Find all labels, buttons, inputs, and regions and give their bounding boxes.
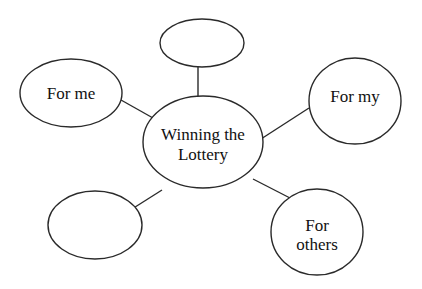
node-top-empty: [160, 19, 244, 67]
node-for-my-label: For my: [330, 87, 380, 106]
node-for-others: For others: [271, 189, 363, 275]
diagram-svg: For me For my Winning the Lottery For ot…: [0, 0, 422, 289]
node-center: Winning the Lottery: [143, 96, 263, 188]
node-center-label-line1: Winning the: [161, 125, 245, 144]
connector-center-bottom-left: [132, 190, 162, 209]
connector-center-for-me: [121, 100, 153, 118]
node-for-me-label: For me: [47, 84, 96, 103]
node-for-others-label-line1: For: [305, 216, 329, 235]
node-center-label-line2: Lottery: [178, 145, 229, 164]
node-bottom-left-empty: [48, 191, 142, 259]
connector-center-for-my: [261, 108, 309, 139]
mind-map-diagram: For me For my Winning the Lottery For ot…: [0, 0, 422, 289]
node-for-my: For my: [309, 58, 401, 144]
node-for-me: For me: [20, 59, 122, 127]
connector-center-for-others: [253, 179, 290, 198]
node-for-others-label-line2: others: [296, 235, 338, 254]
